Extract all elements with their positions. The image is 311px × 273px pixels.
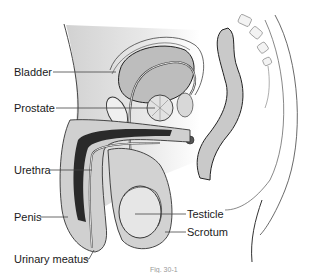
seminal-vesicle [177,93,193,117]
label-urethra: Urethra [14,164,51,176]
anatomy-diagram: Bladder Prostate Urethra Penis Urinary m… [0,0,311,273]
label-bladder: Bladder [14,66,52,78]
label-scrotum: Scrotum [187,226,228,238]
label-prostate: Prostate [14,102,55,114]
label-testicle: Testicle [187,208,224,220]
figure-caption: Fig. 30-1 [150,266,178,273]
label-penis: Penis [14,211,42,223]
label-urinary-meatus: Urinary meatus [14,253,89,265]
colon [197,28,243,180]
anatomy-illustration [0,0,311,273]
leg-contour [252,200,262,262]
